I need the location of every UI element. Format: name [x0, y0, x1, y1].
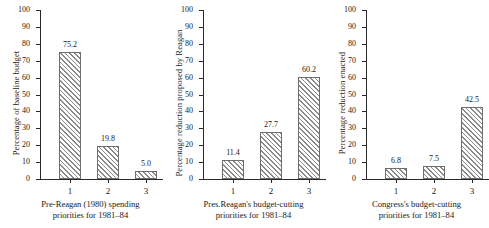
y-tick-label: 100	[18, 6, 30, 14]
caption-line-1: Pre-Reagan (1980) spending	[41, 199, 139, 209]
y-tick-label: 20	[185, 141, 193, 149]
y-tick-label: 0	[26, 175, 30, 183]
y-tick-label: 70	[185, 57, 193, 65]
x-tick-label: 2	[96, 187, 120, 196]
y-tick-label: 60	[22, 74, 30, 82]
y-tick-label: 90	[22, 23, 30, 31]
y-tick-label: 40	[348, 107, 356, 115]
x-tick-label: 3	[460, 187, 484, 196]
y-tick-label: 100	[344, 6, 356, 14]
bar-value-label: 75.2	[50, 41, 90, 49]
y-tick-label: 20	[348, 141, 356, 149]
x-tick-label: 2	[259, 187, 283, 196]
caption-line-2: priorities for 1981–84	[344, 210, 489, 221]
bar-value-label: 7.5	[414, 155, 454, 163]
y-tick-label: 80	[348, 40, 356, 48]
y-tick-label: 60	[185, 74, 193, 82]
bar-value-label: 19.8	[88, 135, 128, 143]
y-tick-label: 50	[185, 91, 193, 99]
chart-panel-1: Percentage of baseline budget 100 90 80 …	[0, 0, 163, 228]
y-tick-label: 100	[181, 6, 193, 14]
x-tick-label: 3	[297, 187, 321, 196]
bar-group-panel-3: 6.8 7.5 42.5 1 2 3	[367, 10, 484, 179]
caption-line-2: priorities for 1981–84	[18, 210, 163, 221]
y-tick-label: 40	[185, 107, 193, 115]
y-tick-label: 60	[348, 74, 356, 82]
bar-value-label: 42.5	[452, 96, 489, 104]
x-tick-label: 3	[134, 187, 158, 196]
y-tick-label: 80	[185, 40, 193, 48]
chart-panel-3: Percentage reduction enacted 100 90 80 7…	[326, 0, 489, 228]
y-tick-label: 90	[185, 23, 193, 31]
bar[interactable]	[385, 168, 407, 180]
y-tick-label: 10	[348, 158, 356, 166]
bar-value-label: 6.8	[376, 157, 416, 165]
y-tick-label: 30	[22, 124, 30, 132]
bar-value-label: 27.7	[251, 121, 291, 129]
y-tick-label: 10	[22, 158, 30, 166]
x-axis-line	[366, 179, 489, 180]
y-tick-label: 50	[22, 91, 30, 99]
y-tick-label: 10	[185, 158, 193, 166]
bar[interactable]	[260, 132, 282, 179]
y-tick-label: 70	[22, 57, 30, 65]
caption-line-1: Pres.Reagan's budget-cutting	[204, 199, 304, 209]
chart-panel-2: Percentage reduction proposed by Reagan …	[163, 0, 326, 228]
y-tick-label: 30	[185, 124, 193, 132]
plot-area-panel-3: 100 90 80 70 60 50 40 30 20 10 0 6.8 7.5…	[366, 10, 484, 180]
x-tick-label: 2	[422, 187, 446, 196]
bar-group-panel-1: 75.2 19.8 5.0 1 2 3	[41, 10, 158, 179]
bar[interactable]	[298, 77, 320, 179]
bar[interactable]	[97, 146, 119, 180]
bar-value-label: 60.2	[289, 66, 329, 74]
x-tick-label: 1	[58, 187, 82, 196]
x-tick-label: 1	[221, 187, 245, 196]
bar[interactable]	[135, 171, 157, 180]
x-axis-caption-panel-3: Congress's budget-cutting priorities for…	[344, 199, 489, 221]
x-axis-caption-panel-2: Pres.Reagan's budget-cutting priorities …	[181, 199, 326, 221]
y-tick-label: 0	[352, 175, 356, 183]
y-tick-label: 30	[348, 124, 356, 132]
y-tick-label: 70	[348, 57, 356, 65]
y-tick-label: 20	[22, 141, 30, 149]
bar[interactable]	[222, 160, 244, 179]
bar-value-label: 11.4	[213, 149, 253, 157]
bar[interactable]	[461, 107, 483, 179]
x-axis-caption-panel-1: Pre-Reagan (1980) spending priorities fo…	[18, 199, 163, 221]
plot-area-panel-2: 100 90 80 70 60 50 40 30 20 10 0 11.4 27…	[203, 10, 321, 180]
y-tick-label: 90	[348, 23, 356, 31]
bar-chart-figure: Percentage of baseline budget 100 90 80 …	[0, 0, 489, 228]
x-axis-line	[203, 179, 326, 180]
bar-value-label: 5.0	[126, 160, 166, 168]
x-tick-label: 1	[384, 187, 408, 196]
y-tick-label: 80	[22, 40, 30, 48]
bar[interactable]	[59, 52, 81, 179]
caption-line-2: priorities for 1981–84	[181, 210, 326, 221]
bar[interactable]	[423, 166, 445, 179]
plot-area-panel-1: 100 90 80 70 60 50 40 30 20 10 0 75.2 19…	[40, 10, 158, 180]
y-tick-label: 40	[22, 107, 30, 115]
y-tick-label: 50	[348, 91, 356, 99]
caption-line-1: Congress's budget-cutting	[372, 199, 461, 209]
y-tick-label: 0	[189, 175, 193, 183]
x-axis-line	[40, 179, 163, 180]
bar-group-panel-2: 11.4 27.7 60.2 1 2 3	[204, 10, 321, 179]
